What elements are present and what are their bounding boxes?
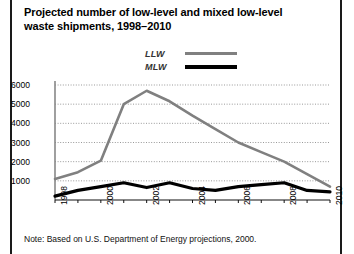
legend-swatch-llw bbox=[185, 52, 237, 55]
x-tick-label-2002: 2002 bbox=[151, 186, 161, 205]
plot-area bbox=[24, 78, 334, 203]
x-tick-label-2006: 2006 bbox=[242, 186, 252, 205]
legend-swatch-mlw bbox=[185, 65, 237, 69]
figure-container: Projected number of low-level and mixed … bbox=[0, 0, 354, 254]
x-tick-label-2010: 2010 bbox=[334, 186, 344, 205]
x-tick-label-1998: 1998 bbox=[59, 186, 69, 205]
x-tick-label-2004: 2004 bbox=[197, 186, 207, 205]
legend-label-llw: LLW bbox=[145, 49, 175, 59]
figure-note: Note: Based on U.S. Department of Energy… bbox=[24, 234, 256, 244]
x-tick-label-2000: 2000 bbox=[105, 186, 115, 205]
series-line-llw bbox=[55, 91, 330, 187]
legend-item-mlw: MLW bbox=[145, 61, 255, 72]
chart-title: Projected number of low-level and mixed … bbox=[24, 6, 324, 33]
legend-item-llw: LLW bbox=[145, 48, 255, 59]
x-tick-label-2008: 2008 bbox=[288, 186, 298, 205]
chart-legend: LLW MLW bbox=[145, 48, 255, 74]
chart-title-line-1: Projected number of low-level and mixed … bbox=[24, 6, 324, 20]
chart-title-line-2: waste shipments, 1998–2010 bbox=[24, 20, 324, 34]
legend-label-mlw: MLW bbox=[145, 62, 175, 72]
plot-svg bbox=[24, 78, 334, 203]
x-axis-tick-labels: 1998200020022004200620082010 bbox=[0, 203, 354, 233]
